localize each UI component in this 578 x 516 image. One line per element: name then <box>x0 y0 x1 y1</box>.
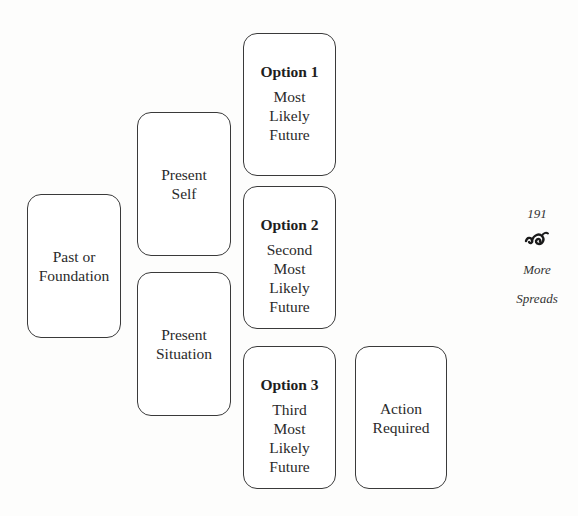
card-label-line: Likely <box>269 438 309 457</box>
card-label-line: Likely <box>269 106 309 125</box>
card-label-line: Past or <box>53 247 96 266</box>
card-title: Option 1 <box>260 62 318 81</box>
section-label-more: More <box>505 262 569 278</box>
card-label-line: Future <box>269 297 309 316</box>
card-label-line: Situation <box>156 344 212 363</box>
card-label-line: Present <box>161 165 207 184</box>
card-action-required: Action Required <box>355 346 447 489</box>
card-label-line: Foundation <box>39 266 110 285</box>
page-number: 191 <box>505 206 569 222</box>
card-past-or-foundation: Past or Foundation <box>27 194 121 338</box>
card-label-line: Present <box>161 325 207 344</box>
card-present-situation: Present Situation <box>137 272 231 416</box>
card-option-1: Option 1 Most Likely Future <box>243 33 336 176</box>
card-label-line: Future <box>269 457 309 476</box>
card-option-2: Option 2 Second Most Likely Future <box>243 186 336 329</box>
card-label-line: Second <box>267 240 313 259</box>
card-label-line: Third <box>272 400 306 419</box>
fleuron-icon <box>524 229 550 247</box>
card-title: Option 2 <box>260 215 318 234</box>
card-option-3: Option 3 Third Most Likely Future <box>243 346 336 489</box>
card-label-line: Action <box>380 399 422 418</box>
card-label-line: Future <box>269 125 309 144</box>
card-label-line: Most <box>274 87 306 106</box>
card-title: Option 3 <box>260 375 318 394</box>
section-label-spreads: Spreads <box>505 291 569 307</box>
card-label-line: Likely <box>269 278 309 297</box>
card-label-line: Most <box>274 259 306 278</box>
card-label-line: Most <box>274 419 306 438</box>
card-label-line: Self <box>172 184 197 203</box>
card-present-self: Present Self <box>137 112 231 256</box>
card-label-line: Required <box>373 418 430 437</box>
